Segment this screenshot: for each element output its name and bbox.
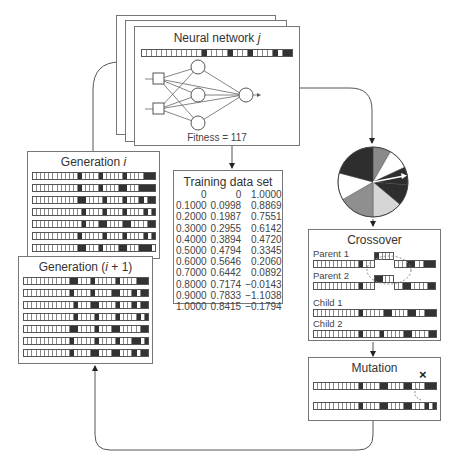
table-row: 0.80000.7174−0.0143: [174, 279, 284, 290]
mutation-after-chromosome: [313, 402, 437, 410]
gene: [152, 221, 155, 227]
table-cell: 0.6000: [174, 256, 209, 267]
crossover-title: Crossover: [309, 233, 440, 247]
training-data-table: 001.00000.10000.09980.88690.20000.19870.…: [174, 189, 284, 312]
table-row: 0.60000.56460.2060: [174, 256, 284, 267]
mutation-mark-icon: ×: [419, 367, 427, 382]
chromosome-row: [32, 172, 156, 180]
table-cell: 0.7833: [209, 290, 244, 301]
mutation-panel: Mutation ×: [308, 357, 441, 421]
gene: [145, 338, 148, 344]
gene: [145, 290, 148, 296]
generation-i1-panel: Generation (i + 1): [18, 256, 153, 364]
gene: [152, 209, 155, 215]
table-cell: −0.0143: [243, 279, 283, 290]
input-node: [153, 73, 164, 84]
neural-network-chromosome: [141, 49, 293, 57]
table-cell: 0: [209, 189, 244, 200]
title-var: i: [124, 155, 127, 169]
table-cell: 0.2060: [243, 256, 283, 267]
chromosome-row: [32, 196, 156, 204]
table-cell: 0.4794: [209, 245, 244, 256]
parent1-label: Parent 1: [313, 248, 349, 259]
gene: [145, 314, 148, 320]
fitness-label: Fitness = 117: [135, 132, 299, 143]
table-row: 0.40000.38940.4720: [174, 234, 284, 245]
table-cell: 0.2000: [174, 211, 209, 222]
training-data-panel: Training data set 001.00000.10000.09980.…: [173, 170, 283, 304]
neural-network-title: Neural network j: [135, 31, 299, 45]
chromosome-row: [32, 220, 156, 228]
table-row: 0.70000.64420.0892: [174, 267, 284, 278]
output-node: [239, 88, 253, 102]
table-cell: 0.3894: [209, 234, 244, 245]
table-cell: 0.4000: [174, 234, 209, 245]
chromosome-row: [23, 337, 149, 345]
table-cell: 0.2955: [209, 223, 244, 234]
gene: [152, 233, 155, 239]
table-cell: 0.6442: [209, 267, 244, 278]
gene: [145, 350, 148, 356]
generation-i-title: Generation i: [28, 155, 159, 169]
generation-i-panel: Generation i: [27, 151, 160, 259]
neural-network-graph: [135, 57, 301, 135]
table-cell: 0.0998: [209, 200, 244, 211]
training-data-title: Training data set: [174, 175, 282, 189]
chromosome-row: [23, 349, 149, 357]
table-cell: 0.6142: [243, 223, 283, 234]
table-row: 0.90000.7833−1.1038: [174, 290, 284, 301]
table-cell: 0.3345: [243, 245, 283, 256]
table-cell: 0.5646: [209, 256, 244, 267]
table-cell: 0.7000: [174, 267, 209, 278]
title-suffix: + 1): [108, 260, 132, 274]
table-cell: 0.9000: [174, 290, 209, 301]
table-cell: 0.7551: [243, 211, 283, 222]
table-cell: 0.8415: [209, 301, 244, 312]
chromosome-row: [23, 313, 149, 321]
table-cell: 0.1000: [174, 200, 209, 211]
table-cell: 0.5000: [174, 245, 209, 256]
hidden-node: [191, 116, 205, 130]
gene: [145, 326, 148, 332]
chromosome-row: [32, 232, 156, 240]
gene: [152, 173, 155, 179]
chromosome-row: [23, 301, 149, 309]
chromosome-row: [32, 208, 156, 216]
crossover-panel: Crossover Parent 1 Parent 2 Child 1 Chil…: [308, 229, 441, 341]
chromosome-row: [32, 244, 156, 252]
table-row: 0.10000.09980.8869: [174, 200, 284, 211]
table-cell: 0.8000: [174, 279, 209, 290]
table-cell: 0.1987: [209, 211, 244, 222]
table-cell: 0: [174, 189, 209, 200]
table-cell: −0.1794: [243, 301, 283, 312]
generation-i1-title: Generation (i + 1): [19, 260, 152, 274]
roulette-wheel: [335, 144, 411, 220]
gene: [432, 283, 435, 289]
gene: [288, 50, 292, 56]
hidden-node: [191, 60, 205, 74]
input-node: [153, 103, 164, 114]
title-var: j: [258, 31, 261, 45]
table-cell: 0.3000: [174, 223, 209, 234]
table-row: 0.20000.19870.7551: [174, 211, 284, 222]
gene: [433, 331, 436, 337]
gene: [152, 185, 155, 191]
gene: [145, 302, 148, 308]
table-row: 0.30000.29550.6142: [174, 223, 284, 234]
parent2-label: Parent 2: [313, 270, 349, 281]
chromosome-row: [23, 289, 149, 297]
neural-network-panel: Neural network j Fitness = 117: [134, 26, 300, 146]
hidden-node: [191, 88, 205, 102]
chromosome-row: [23, 325, 149, 333]
gene: [145, 278, 148, 284]
child2-label: Child 2: [313, 318, 343, 329]
table-cell: 0.7174: [209, 279, 244, 290]
title-text: Generation (: [39, 260, 106, 274]
child2-chromosome: [313, 330, 437, 338]
child1-label: Child 1: [313, 297, 343, 308]
table-cell: 0.0892: [243, 267, 283, 278]
table-cell: 1.0000: [174, 301, 209, 312]
table-row: 1.00000.8415−0.1794: [174, 301, 284, 312]
title-text: Neural network: [174, 31, 258, 45]
swap-arrows: [364, 252, 414, 292]
